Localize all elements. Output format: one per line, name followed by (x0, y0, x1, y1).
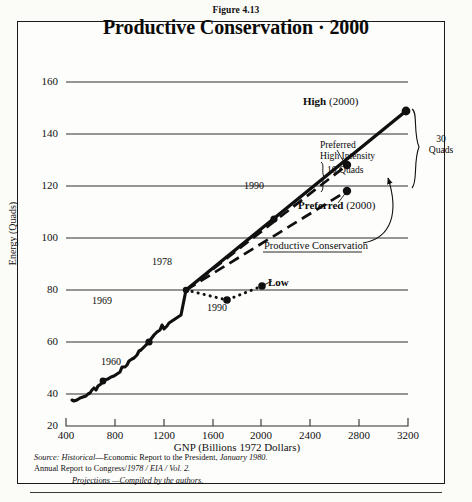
y-tick-40: 40 (30, 387, 58, 399)
annotation-high-year: (2000) (329, 95, 358, 107)
annotation-year-1990-high: 1990 (244, 180, 264, 191)
annotation-high-bold: High (303, 95, 326, 107)
source-line-2: Annual Report to Congress/1978 / EIA / V… (34, 463, 424, 474)
source-line-1-italic: January 1980. (220, 453, 268, 462)
annotation-phi-line1: Preferred (320, 139, 375, 150)
y-tick-160: 160 (30, 75, 58, 87)
annotation-productive-conservation: Productive Conservation (264, 240, 368, 251)
source-line-2-italic: 1978 / EIA / Vol. 2. (127, 464, 190, 473)
figure-number: Figure 4.13 (0, 5, 472, 15)
annotation-30q-line1: 30 (424, 133, 458, 144)
x-tick-400: 400 (43, 429, 89, 441)
page-title: Productive Conservation · 2000 (0, 16, 472, 39)
x-tick-2800: 2800 (336, 429, 382, 441)
annotation-low: Low (268, 276, 289, 288)
source-line-1-rest: —Economic Report to the President, (95, 453, 219, 462)
x-tick-3200: 3200 (385, 429, 431, 441)
x-tick-1200: 1200 (141, 429, 187, 441)
annotation-10-quads: 10 Quads (327, 164, 364, 175)
y-tick-60: 60 (30, 335, 58, 347)
annotation-year-1969: 1969 (92, 295, 112, 306)
annotation-high-2000: High (2000) (303, 95, 358, 107)
x-tick-2400: 2400 (287, 429, 333, 441)
y-tick-140: 140 (30, 127, 58, 139)
bottom-rule (30, 492, 442, 493)
y-tick-100: 100 (30, 231, 58, 243)
source-line-3-italic: Projections —Compiled by the authors. (72, 476, 203, 485)
annotation-preferred-bold: Preferred (298, 199, 343, 211)
annotation-preferred-high-intensity: Preferred High Intensity (320, 139, 375, 162)
y-tick-120: 120 (30, 179, 58, 191)
source-line-1: Source: Historical—Economic Report to th… (34, 452, 424, 463)
annotation-30-quads: 30 Quads (424, 133, 458, 156)
x-tick-1600: 1600 (190, 429, 236, 441)
figure-frame (17, 21, 445, 484)
x-tick-800: 800 (92, 429, 138, 441)
annotation-30q-line2: Quads (424, 144, 458, 155)
annotation-preferred-2000: Preferred (2000) (298, 199, 375, 211)
figure-page: Figure 4.13 Productive Conservation · 20… (0, 0, 472, 502)
source-notes: Source: Historical—Economic Report to th… (34, 452, 424, 486)
annotation-phi-line2: High Intensity (320, 150, 375, 161)
annotation-preferred-year: (2000) (346, 199, 375, 211)
y-tick-80: 80 (30, 283, 58, 295)
y-axis-title: Energy (Quads) (7, 194, 18, 274)
source-line-2-prefix: Annual Report to Congress/ (34, 464, 127, 473)
annotation-year-1960: 1960 (101, 356, 121, 367)
source-line-3: Projections —Compiled by the authors. (34, 475, 424, 486)
annotation-year-1978: 1978 (152, 256, 172, 267)
source-line-1-prefix: Source: Historical (34, 453, 95, 462)
annotation-year-1990-low: 1990 (207, 302, 227, 313)
x-tick-2000: 2000 (238, 429, 284, 441)
